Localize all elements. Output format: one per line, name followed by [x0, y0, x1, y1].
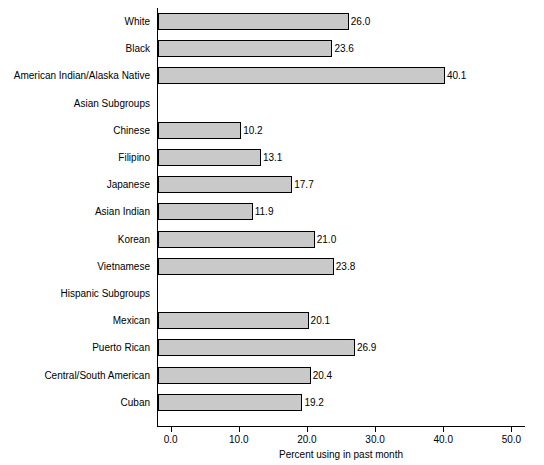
category-label: Cuban — [0, 389, 150, 416]
bar — [158, 122, 241, 139]
category-label: Hispanic Subgroups — [0, 280, 150, 307]
bar-value-label: 40.1 — [447, 67, 466, 84]
bar-value-label: 20.1 — [311, 312, 330, 329]
bar — [158, 203, 253, 220]
chart-row: Hispanic Subgroups — [0, 280, 544, 307]
bar — [158, 394, 302, 411]
chart-row: Cuban19.2 — [0, 389, 544, 416]
chart-row: Asian Subgroups — [0, 90, 544, 117]
category-label: Asian Indian — [0, 198, 150, 225]
category-label: Japanese — [0, 171, 150, 198]
bar-value-label: 26.0 — [351, 13, 370, 30]
category-label: Black — [0, 35, 150, 62]
bar — [158, 312, 309, 329]
category-label: Vietnamese — [0, 253, 150, 280]
bar — [158, 339, 355, 356]
x-tick-mark — [511, 427, 512, 432]
x-tick-mark — [443, 427, 444, 432]
bar — [158, 40, 332, 57]
x-tick-label: 40.0 — [423, 434, 463, 445]
category-label: American Indian/Alaska Native — [0, 62, 150, 89]
x-axis-title: Percent using in past month — [157, 449, 525, 460]
x-axis-line — [157, 426, 525, 427]
bar-value-label: 21.0 — [317, 231, 336, 248]
bar — [158, 231, 315, 248]
bar-value-label: 13.1 — [263, 149, 282, 166]
bar-value-label: 10.2 — [243, 122, 262, 139]
category-label: Chinese — [0, 117, 150, 144]
bar-value-label: 26.9 — [357, 339, 376, 356]
category-label: White — [0, 8, 150, 35]
bar — [158, 67, 445, 84]
chart-row: Filipino13.1 — [0, 144, 544, 171]
category-label: Asian Subgroups — [0, 90, 150, 117]
category-label: Korean — [0, 226, 150, 253]
chart-row: American Indian/Alaska Native40.1 — [0, 62, 544, 89]
category-label: Mexican — [0, 307, 150, 334]
bar — [158, 258, 334, 275]
x-tick-label: 0.0 — [151, 434, 191, 445]
x-tick-label: 20.0 — [287, 434, 327, 445]
bar-value-label: 23.8 — [336, 258, 355, 275]
chart-row: Mexican20.1 — [0, 307, 544, 334]
chart-row: Vietnamese23.8 — [0, 253, 544, 280]
category-label: Filipino — [0, 144, 150, 171]
x-tick-mark — [307, 427, 308, 432]
bar — [158, 367, 311, 384]
x-tick-label: 50.0 — [491, 434, 531, 445]
x-tick-label: 10.0 — [219, 434, 259, 445]
bar-value-label: 23.6 — [334, 40, 353, 57]
bar-value-label: 20.4 — [313, 367, 332, 384]
bar-value-label: 11.9 — [255, 203, 274, 220]
chart-row: Korean21.0 — [0, 226, 544, 253]
category-label: Puerto Rican — [0, 334, 150, 361]
bar — [158, 149, 261, 166]
category-label: Central/South American — [0, 362, 150, 389]
chart-row: Asian Indian11.9 — [0, 198, 544, 225]
x-tick-label: 30.0 — [355, 434, 395, 445]
bar — [158, 13, 349, 30]
bar-value-label: 19.2 — [304, 394, 323, 411]
bar — [158, 176, 292, 193]
chart-row: Central/South American20.4 — [0, 362, 544, 389]
chart-row: Black23.6 — [0, 35, 544, 62]
x-tick-mark — [375, 427, 376, 432]
chart-row: Chinese10.2 — [0, 117, 544, 144]
bar-chart: 0.010.020.030.040.050.0 Percent using in… — [0, 0, 544, 465]
x-tick-mark — [171, 427, 172, 432]
chart-row: Puerto Rican26.9 — [0, 334, 544, 361]
bar-value-label: 17.7 — [294, 176, 313, 193]
chart-row: Japanese17.7 — [0, 171, 544, 198]
x-tick-mark — [239, 427, 240, 432]
chart-row: White26.0 — [0, 8, 544, 35]
